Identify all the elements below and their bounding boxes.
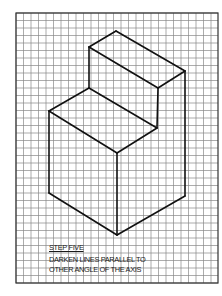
edge-line bbox=[49, 111, 117, 153]
instruction-line-2: OTHER ANGLE OF THE AXIS bbox=[49, 266, 141, 274]
edge-line bbox=[89, 31, 116, 47]
edge-line bbox=[89, 88, 157, 128]
step-title: STEP FIVE bbox=[49, 244, 84, 252]
edge-line bbox=[49, 193, 117, 235]
edge-line bbox=[89, 47, 158, 88]
grid-lines bbox=[16, 13, 218, 283]
instruction-line-1: DARKEN LINES PARALLEL TO bbox=[49, 256, 145, 264]
grid-paper-drawing bbox=[0, 0, 222, 296]
edge-line bbox=[116, 31, 185, 71]
edge-line bbox=[49, 88, 89, 111]
edge-line bbox=[157, 88, 158, 128]
